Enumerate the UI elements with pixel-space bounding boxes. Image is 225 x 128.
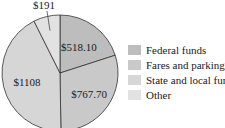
legend-swatch bbox=[128, 75, 141, 85]
legend-swatch bbox=[128, 60, 141, 70]
slice-label: $767.70 bbox=[71, 88, 107, 100]
legend-label: Federal funds bbox=[146, 44, 206, 56]
legend-swatch bbox=[128, 90, 141, 100]
legend-label: Fares and parking bbox=[146, 59, 225, 71]
pie-slices bbox=[2, 15, 118, 128]
legend-label: State and local funds bbox=[146, 74, 225, 86]
legend-item-fares-and-parking: Fares and parking bbox=[128, 57, 225, 72]
slice-label: $518.10 bbox=[61, 41, 97, 53]
legend-label: Other bbox=[146, 89, 171, 101]
slice-label: $1108 bbox=[14, 76, 42, 88]
slice-label: $191 bbox=[33, 0, 55, 11]
legend-swatch bbox=[128, 45, 141, 55]
legend-item-other: Other bbox=[128, 87, 225, 102]
legend-item-state-and-local-funds: State and local funds bbox=[128, 72, 225, 87]
legend-item-federal-funds: Federal funds bbox=[128, 42, 225, 57]
legend: Federal funds Fares and parking State an… bbox=[128, 42, 225, 102]
